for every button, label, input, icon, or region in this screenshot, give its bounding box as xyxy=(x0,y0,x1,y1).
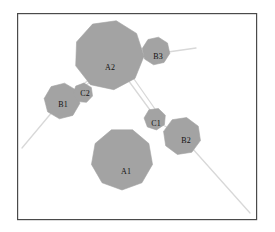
node-label-c1: C1 xyxy=(151,119,160,128)
node-label-a2: A2 xyxy=(105,63,115,72)
node-label-a1: A1 xyxy=(121,167,131,176)
node-label-b3: B3 xyxy=(153,52,162,61)
node-label-b2: B2 xyxy=(181,136,190,145)
diagram-canvas: A2A1B1B2B3C1C2 xyxy=(0,0,275,232)
node-label-b1: B1 xyxy=(58,100,67,109)
node-label-c2: C2 xyxy=(80,89,89,98)
diagram-figure: A2A1B1B2B3C1C2 xyxy=(0,0,275,232)
